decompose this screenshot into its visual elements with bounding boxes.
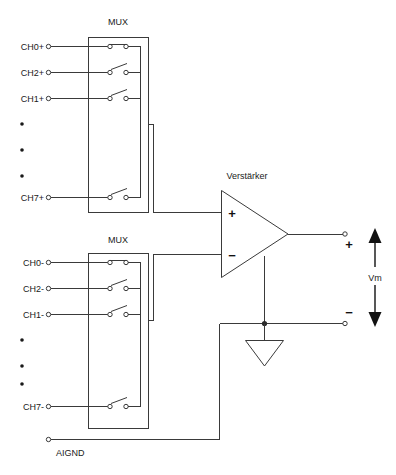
output-plus-sign: + [345,237,353,252]
terminal-aignd[interactable] [46,437,50,441]
ellipsis-dot-top-3 [20,174,24,178]
label-ch7-plus: CH7+ [21,193,44,203]
ellipsis-dot-bottom-1 [20,338,24,342]
switch-contact-ch7-minus-left [108,404,112,408]
output-minus-sign: − [345,305,353,320]
terminal-output-plus[interactable] [343,232,347,236]
vm-arrow-down-head [369,312,382,327]
terminal-output-minus[interactable] [343,321,347,325]
switch-contact-ch2-plus-left [108,70,112,74]
switch-contact-ch7-plus-left [108,195,112,199]
switch-contact-ch1-minus-right [124,312,128,316]
circuit-schematic: MUX CH0+ CH2+ CH1+ CH7+ [0,0,396,475]
label-ch2-minus: CH2- [23,284,44,294]
vm-measurement-indicator: Vm [363,228,387,327]
mux-top-label: MUX [108,17,128,27]
terminal-ch1-plus[interactable] [46,96,50,100]
amplifier-input-minus-sign: − [228,248,236,263]
amplifier-label: Verstärker [226,171,267,181]
switch-contact-ch7-minus-right [124,404,128,408]
terminal-ch0-minus[interactable] [46,260,50,264]
switch-contact-ch1-minus-left [108,312,112,316]
terminal-ch0-plus[interactable] [46,44,50,48]
mux-bottom-label: MUX [108,235,128,245]
label-aignd: AIGND [56,448,85,458]
ellipsis-dot-bottom-3 [20,382,24,386]
label-ch0-plus: CH0+ [21,42,44,52]
wire-aignd-to-ground-node [51,324,220,440]
ground-symbol-icon [246,341,284,367]
switch-lever-ch2-minus-open[interactable] [111,280,127,286]
switch-lever-ch1-plus-open[interactable] [111,90,127,96]
switch-lever-ch7-plus-open[interactable] [111,189,127,195]
label-ch1-plus: CH1+ [21,94,44,104]
switch-contact-ch2-plus-right [124,70,128,74]
switch-contact-ch7-plus-right [124,195,128,199]
amplifier-body[interactable] [222,191,289,278]
terminal-ch7-minus[interactable] [46,404,50,408]
label-ch1-minus: CH1- [23,310,44,320]
terminal-ch1-minus[interactable] [46,312,50,316]
switch-lever-ch2-plus-open[interactable] [111,64,127,70]
label-ch2-plus: CH2+ [21,68,44,78]
terminal-ch2-plus[interactable] [46,70,50,74]
switch-contact-ch1-plus-right [124,96,128,100]
switch-lever-ch7-minus-open[interactable] [111,398,127,404]
mux-bottom-body [89,254,149,429]
vm-label: Vm [368,273,382,283]
circuit-diagram-canvas: MUX CH0+ CH2+ CH1+ CH7+ [0,0,396,475]
wire-mux-bottom-common-rail [128,263,141,407]
switch-lever-ch1-minus-open[interactable] [111,306,127,312]
amplifier-input-plus-sign: + [228,206,236,221]
terminal-ch7-plus[interactable] [46,195,50,199]
vm-arrow-up-head [369,228,382,243]
terminal-ch2-minus[interactable] [46,286,50,290]
label-ch0-minus: CH0- [23,258,44,268]
switch-contact-ch2-minus-left [108,286,112,290]
wire-mux-bottom-output-bus [149,255,222,321]
label-ch7-minus: CH7- [23,402,44,412]
wire-mux-top-common-rail [128,47,141,198]
ellipsis-dot-bottom-2 [20,364,24,368]
switch-contact-ch2-minus-right [124,286,128,290]
wire-mux-top-output-bus [149,125,222,213]
ellipsis-dot-top-1 [20,122,24,126]
mux-top-body [89,38,149,213]
switch-contact-ch1-plus-left [108,96,112,100]
ellipsis-dot-top-2 [20,148,24,152]
